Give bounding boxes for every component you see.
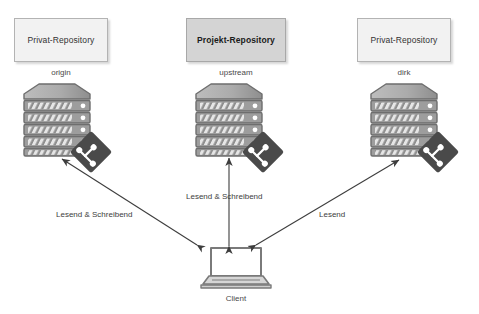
- repo-box-origin-label: Privat-Repository: [28, 35, 95, 45]
- git-logo-icon-dirk: [415, 129, 461, 175]
- laptop-icon-client: [198, 246, 274, 292]
- caption-client: Client: [186, 294, 286, 303]
- repo-box-upstream: Projekt-Repository: [186, 18, 286, 62]
- diagram-canvas: Privat-Repository Projekt-Repository Pri…: [0, 0, 479, 314]
- caption-origin: origin: [14, 68, 108, 77]
- edge-label-client-origin: Lesend & Schreibend: [56, 210, 133, 219]
- repo-box-dirk-label: Privat-Repository: [371, 35, 438, 45]
- git-logo-icon-origin: [68, 129, 114, 175]
- caption-upstream: upstream: [186, 68, 286, 77]
- repo-box-dirk: Privat-Repository: [357, 18, 451, 62]
- edge-label-client-dirk: Lesend: [319, 210, 345, 219]
- edge-label-client-upstream: Lesend & Schreibend: [186, 192, 263, 201]
- caption-dirk: dirk: [357, 68, 451, 77]
- git-logo-icon-upstream: [240, 129, 286, 175]
- repo-box-upstream-label: Projekt-Repository: [197, 35, 275, 45]
- repo-box-origin: Privat-Repository: [14, 18, 108, 62]
